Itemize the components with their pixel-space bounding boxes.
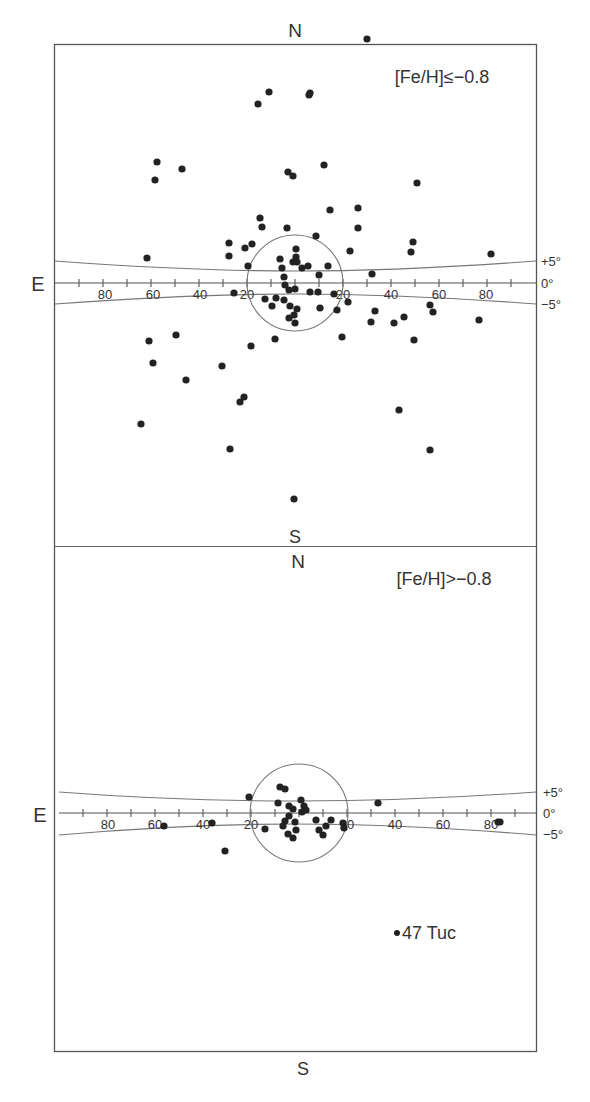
cluster-point bbox=[225, 252, 232, 259]
cluster-point bbox=[289, 805, 296, 812]
cluster-point bbox=[143, 254, 150, 261]
cluster-point bbox=[291, 285, 298, 292]
cluster-point bbox=[319, 831, 326, 838]
cluster-point bbox=[290, 495, 297, 502]
cluster-point bbox=[315, 271, 322, 278]
47-tuc-label: 47 Tuc bbox=[402, 923, 456, 943]
cluster-point bbox=[241, 244, 248, 251]
cluster-point bbox=[475, 316, 482, 323]
cluster-point bbox=[314, 288, 321, 295]
cluster-point bbox=[320, 161, 327, 168]
cluster-point bbox=[293, 258, 300, 265]
bottom-east-label: E bbox=[33, 804, 46, 826]
cluster-point bbox=[291, 319, 298, 326]
svg-text:40: 40 bbox=[196, 817, 210, 832]
bottom-cluster-points bbox=[160, 783, 503, 854]
svg-text:80: 80 bbox=[101, 817, 115, 832]
cluster-point bbox=[160, 822, 167, 829]
cluster-point bbox=[304, 262, 311, 269]
cluster-point bbox=[330, 290, 337, 297]
cluster-point bbox=[487, 250, 494, 257]
cluster-point bbox=[279, 822, 286, 829]
cluster-point bbox=[368, 270, 375, 277]
cluster-point bbox=[256, 214, 263, 221]
cluster-point bbox=[312, 232, 319, 239]
cluster-point bbox=[283, 224, 290, 231]
cluster-point bbox=[289, 172, 296, 179]
cluster-point bbox=[258, 223, 265, 230]
cluster-point bbox=[395, 406, 402, 413]
bottom-metallicity-label: [Fe/H]>−0.8 bbox=[396, 569, 491, 589]
cluster-point bbox=[226, 445, 233, 452]
sky-distribution-chart: N [Fe/H]≤−0.8 E S 80 60 40 20 20 40 bbox=[0, 0, 590, 1102]
cluster-point bbox=[426, 301, 433, 308]
cluster-point bbox=[280, 273, 287, 280]
cluster-point bbox=[218, 362, 225, 369]
cluster-point bbox=[245, 793, 252, 800]
cluster-point bbox=[247, 342, 254, 349]
cluster-point bbox=[248, 240, 255, 247]
svg-text:40: 40 bbox=[388, 817, 402, 832]
cluster-point bbox=[230, 289, 237, 296]
cluster-point bbox=[254, 100, 261, 107]
cluster-point bbox=[322, 822, 329, 829]
cluster-point bbox=[281, 785, 288, 792]
cluster-point bbox=[413, 179, 420, 186]
cluster-point bbox=[367, 318, 374, 325]
cluster-point bbox=[271, 335, 278, 342]
top-east-label: E bbox=[31, 273, 44, 295]
cluster-point bbox=[289, 834, 296, 841]
cluster-point bbox=[149, 359, 156, 366]
cluster-point bbox=[182, 376, 189, 383]
cluster-point bbox=[208, 819, 215, 826]
47-tuc-point bbox=[394, 930, 400, 936]
cluster-point bbox=[346, 247, 353, 254]
svg-text:60: 60 bbox=[432, 287, 446, 302]
cluster-point bbox=[340, 824, 347, 831]
cluster-point bbox=[305, 91, 312, 98]
cluster-point bbox=[302, 806, 309, 813]
cluster-point bbox=[261, 295, 268, 302]
cluster-point bbox=[354, 224, 361, 231]
cluster-point bbox=[429, 308, 436, 315]
cluster-point bbox=[292, 826, 299, 833]
cluster-point bbox=[338, 333, 345, 340]
svg-text:+5°: +5° bbox=[543, 785, 563, 800]
cluster-point bbox=[272, 294, 279, 301]
bottom-north-label: N bbox=[291, 551, 305, 572]
svg-text:+5°: +5° bbox=[541, 254, 561, 269]
cluster-point bbox=[410, 336, 417, 343]
cluster-point bbox=[293, 305, 300, 312]
svg-text:60: 60 bbox=[436, 817, 450, 832]
cluster-point bbox=[172, 331, 179, 338]
cluster-point bbox=[178, 165, 185, 172]
cluster-point bbox=[306, 288, 313, 295]
cluster-point bbox=[344, 298, 351, 305]
cluster-point bbox=[363, 35, 370, 42]
svg-text:0°: 0° bbox=[541, 276, 553, 291]
bottom-band-labels: +5° 0° −5° bbox=[543, 785, 563, 842]
svg-text:0°: 0° bbox=[543, 806, 555, 821]
top-south-label: S bbox=[289, 527, 301, 547]
cluster-point bbox=[291, 818, 298, 825]
svg-text:80: 80 bbox=[98, 287, 112, 302]
cluster-point bbox=[280, 296, 287, 303]
cluster-point bbox=[244, 262, 251, 269]
cluster-point bbox=[390, 319, 397, 326]
svg-text:−5°: −5° bbox=[543, 827, 563, 842]
svg-text:80: 80 bbox=[479, 287, 493, 302]
cluster-point bbox=[145, 337, 152, 344]
cluster-point bbox=[326, 206, 333, 213]
cluster-point bbox=[225, 239, 232, 246]
bottom-panel: N [Fe/H]>−0.8 E S 80 60 40 20 20 40 60 bbox=[33, 551, 563, 1079]
cluster-point bbox=[409, 238, 416, 245]
chart-root: N [Fe/H]≤−0.8 E S 80 60 40 20 20 40 bbox=[0, 0, 590, 1102]
cluster-point bbox=[268, 302, 275, 309]
cluster-point bbox=[261, 825, 268, 832]
svg-text:60: 60 bbox=[148, 817, 162, 832]
cluster-point bbox=[354, 204, 361, 211]
cluster-point bbox=[292, 245, 299, 252]
svg-text:40: 40 bbox=[193, 287, 207, 302]
top-band-labels: +5° 0° −5° bbox=[541, 254, 561, 312]
cluster-point bbox=[151, 176, 158, 183]
